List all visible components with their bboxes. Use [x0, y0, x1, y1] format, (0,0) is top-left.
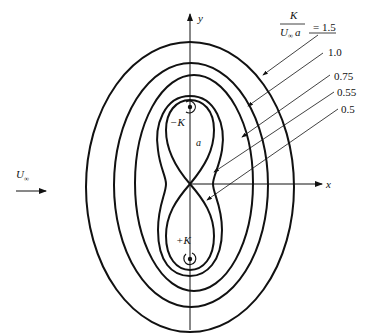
y-axis-label: y	[197, 12, 203, 24]
leader-0.75	[242, 75, 330, 137]
vortex-center-icon	[188, 257, 192, 261]
vortex-upper-label: −K	[170, 116, 185, 128]
freestream-label: U∞	[16, 168, 29, 183]
svg-text:= 1.5: = 1.5	[313, 21, 336, 33]
leader-1.5	[263, 35, 318, 75]
spacing-label: a	[196, 137, 201, 148]
svg-text:K: K	[289, 9, 298, 21]
vortex-center-icon	[188, 105, 192, 109]
vortex-upper	[186, 101, 195, 113]
parameter-label: K U∞a = 1.5	[280, 9, 336, 40]
contour-0.75	[135, 75, 253, 291]
contour-label-1.0: 1.0	[328, 46, 342, 58]
x-axis-label: x	[325, 178, 331, 190]
contour-label-0.5: 0.5	[341, 103, 355, 115]
vortex-lower-label: +K	[176, 234, 191, 246]
svg-text:U∞a: U∞a	[280, 26, 301, 40]
contour-label-0.55: 0.55	[337, 86, 357, 98]
contour-label-0.75: 0.75	[334, 70, 354, 82]
leader-0.5	[207, 109, 338, 200]
streamline-diagram: y x −K a +K U∞ K U∞a = 1.5 1.0 0.75 0.55…	[0, 0, 373, 333]
leader-0.55	[214, 92, 334, 172]
